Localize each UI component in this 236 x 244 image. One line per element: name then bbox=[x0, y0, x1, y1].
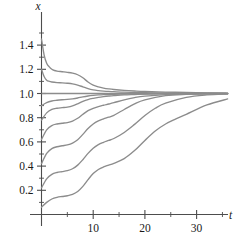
y-axis-label: x bbox=[34, 0, 41, 12]
solution-curve-0 bbox=[42, 39, 228, 93]
x-tick-label: 20 bbox=[139, 222, 151, 234]
y-tick-label: 0.8 bbox=[19, 112, 34, 124]
y-tick-label: 1.0 bbox=[19, 88, 34, 100]
y-tick-label: 1.4 bbox=[19, 39, 34, 51]
x-tick-labels-group: 102030 bbox=[87, 222, 202, 234]
x-axis-label: t bbox=[229, 209, 233, 221]
y-tick-label: 0.2 bbox=[19, 184, 34, 196]
x-tick-label: 10 bbox=[87, 222, 99, 234]
x-tick-label: 30 bbox=[191, 222, 203, 234]
plot-figure: 0.20.40.60.81.01.21.4 102030 x t bbox=[0, 0, 236, 244]
solution-curve-4 bbox=[42, 94, 228, 140]
y-tick-label: 0.6 bbox=[19, 136, 34, 148]
axes-group bbox=[30, 12, 228, 226]
solution-curve-7 bbox=[42, 99, 228, 207]
y-tick-label: 1.2 bbox=[19, 63, 34, 75]
y-tick-labels-group: 0.20.40.60.81.01.21.4 bbox=[19, 39, 34, 196]
curves-group bbox=[42, 39, 228, 207]
plot-canvas: 0.20.40.60.81.01.21.4 102030 x t bbox=[0, 0, 236, 244]
solution-curve-5 bbox=[42, 94, 228, 164]
y-tick-label: 0.4 bbox=[19, 160, 34, 172]
